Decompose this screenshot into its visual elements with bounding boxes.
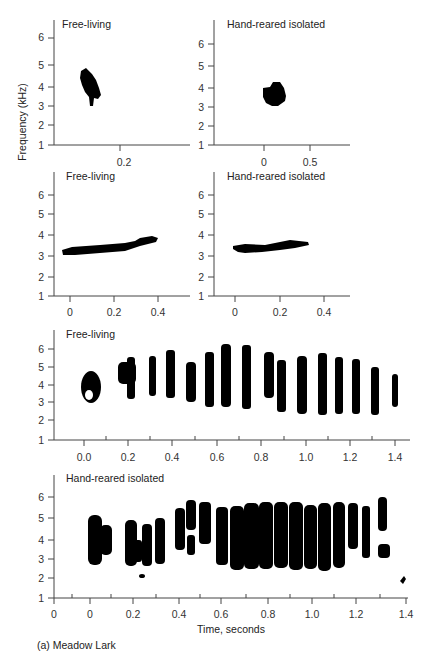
- y-tick: 2: [198, 120, 204, 132]
- sonogram-figure: Free-living 6 5 4 3 2 1 0.2 Hand-reared …: [0, 0, 422, 662]
- y-tick: 5: [38, 512, 44, 524]
- x-tick: 0.4: [165, 451, 180, 463]
- panel-title: Free-living: [66, 328, 115, 340]
- y-axis-label: Frequency (kHz): [16, 83, 28, 161]
- y-tick: 5: [38, 208, 44, 220]
- y-tick: 2: [38, 414, 44, 426]
- syllables: [88, 497, 406, 584]
- panel-title: Hand-reared isolated: [227, 18, 325, 30]
- y-tick: 5: [38, 59, 44, 71]
- y-tick: 4: [38, 81, 44, 93]
- x-tick: 0.8: [261, 608, 276, 620]
- y-tick: 4: [38, 534, 44, 546]
- panel-2: Hand-reared isolated 6 5 4 3 2 1 0 0.5: [198, 18, 350, 168]
- y-tick: 3: [38, 553, 44, 565]
- y-tick: 5: [38, 361, 44, 373]
- x-tick: 1.4: [388, 451, 403, 463]
- y-tick: 1: [198, 139, 204, 151]
- x-tick: 1.0: [305, 608, 320, 620]
- x-tick: 0: [261, 156, 267, 168]
- x-tick: 0.2: [117, 156, 132, 168]
- x-tick: 0.5: [303, 156, 318, 168]
- y-tick: 6: [38, 31, 44, 43]
- y-tick: 3: [38, 100, 44, 112]
- panel-5: Free-living 6 5 4 3 2 1 0.0 0.2 0.4 0.6 …: [38, 328, 410, 463]
- y-tick: 4: [198, 82, 204, 94]
- y-tick: 3: [38, 250, 44, 262]
- panel-4: Hand-reared isolated 6 5 4 3 2 1 0 0.2 0…: [198, 170, 350, 318]
- y-tick: 2: [38, 271, 44, 283]
- x-tick: 1.2: [349, 608, 364, 620]
- x-tick: 0.2: [121, 451, 136, 463]
- y-tick: 6: [198, 38, 204, 50]
- panel-3: Free-living 6 5 4 3 2 1 0 0.2 0.4: [38, 170, 190, 318]
- x-tick: 0: [87, 608, 93, 620]
- y-tick: 1: [38, 434, 44, 446]
- panel-title: Hand-reared isolated: [66, 472, 164, 484]
- y-tick: 3: [38, 396, 44, 408]
- x-tick: 0.2: [273, 306, 288, 318]
- y-tick: 4: [38, 379, 44, 391]
- y-tick: 1: [38, 592, 44, 604]
- y-tick: 2: [38, 572, 44, 584]
- y-tick: 3: [198, 250, 204, 262]
- x-tick: 0.6: [210, 451, 225, 463]
- y-tick: 5: [198, 208, 204, 220]
- y-tick: 2: [38, 119, 44, 131]
- x-tick: 0.8: [254, 451, 269, 463]
- syllables: [81, 344, 398, 415]
- panel-6: Hand-reared isolated 6 5 4 3 2 1 0 0 0.2…: [38, 472, 413, 620]
- x-tick: 0.2: [126, 608, 141, 620]
- y-tick: 4: [38, 229, 44, 241]
- y-tick: 3: [198, 101, 204, 113]
- x-tick: 0: [67, 306, 73, 318]
- x-axis-label: Time, seconds: [197, 623, 265, 635]
- y-tick: 6: [198, 189, 204, 201]
- y-tick: 1: [198, 290, 204, 302]
- y-tick: 1: [38, 139, 44, 151]
- x-tick: 0.4: [172, 608, 187, 620]
- panel-title: Free-living: [62, 18, 111, 30]
- x-tick: 0: [232, 306, 238, 318]
- syllable: [80, 68, 101, 106]
- x-tick: 0.2: [107, 306, 122, 318]
- x-tick: 1.4: [399, 608, 414, 620]
- syllable: [263, 82, 286, 106]
- x-tick: 0.0: [77, 451, 92, 463]
- y-tick: 6: [38, 343, 44, 355]
- y-tick: 1: [38, 290, 44, 302]
- x-tick: 1.0: [299, 451, 314, 463]
- x-tick: 0.4: [317, 306, 332, 318]
- panel-title: Free-living: [66, 170, 115, 182]
- x-tick: 1.2: [343, 451, 358, 463]
- y-tick: 6: [38, 189, 44, 201]
- x-tick: 0.4: [151, 306, 166, 318]
- y-tick: 2: [198, 271, 204, 283]
- panel-1: Free-living 6 5 4 3 2 1 0.2: [38, 18, 190, 168]
- syllable: [233, 240, 309, 253]
- y-tick: 5: [198, 60, 204, 72]
- y-tick: 4: [198, 229, 204, 241]
- panel-title: Hand-reared isolated: [227, 170, 325, 182]
- figure-caption: (a) Meadow Lark: [37, 639, 117, 651]
- x-tick: 0: [51, 608, 57, 620]
- y-tick: 6: [38, 491, 44, 503]
- syllable: [62, 236, 158, 255]
- x-tick: 0.6: [214, 608, 229, 620]
